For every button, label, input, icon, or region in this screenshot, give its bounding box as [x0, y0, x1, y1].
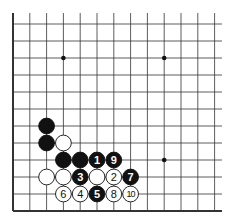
black-stone: 5 — [89, 186, 105, 202]
move-number: 5 — [94, 188, 100, 200]
go-board: 19327645810 — [0, 0, 231, 224]
black-stone — [39, 135, 55, 151]
black-stone: 9 — [106, 152, 122, 168]
white-stone: 8 — [106, 186, 122, 202]
black-stone — [56, 152, 72, 168]
white-stone: 2 — [106, 169, 122, 185]
white-stone: 4 — [72, 186, 88, 202]
black-stone — [72, 152, 88, 168]
move-number: 7 — [128, 171, 134, 183]
black-stone — [39, 118, 55, 134]
move-number: 9 — [111, 154, 117, 166]
black-stone: 7 — [123, 169, 139, 185]
star-point — [162, 56, 167, 61]
star-point — [61, 56, 66, 61]
move-number: 2 — [111, 171, 117, 183]
move-number: 10 — [127, 189, 136, 199]
move-number: 8 — [111, 188, 117, 200]
white-stone: 10 — [123, 186, 139, 202]
white-stone: 6 — [56, 186, 72, 202]
white-stone — [39, 169, 55, 185]
move-number: 1 — [94, 154, 100, 166]
star-point — [162, 158, 167, 163]
move-number: 4 — [77, 188, 83, 200]
black-stone: 1 — [89, 152, 105, 168]
move-number: 6 — [60, 188, 66, 200]
white-stone — [56, 169, 72, 185]
white-stone — [56, 135, 72, 151]
move-number: 3 — [77, 171, 83, 183]
white-stone — [89, 169, 105, 185]
black-stone: 3 — [72, 169, 88, 185]
